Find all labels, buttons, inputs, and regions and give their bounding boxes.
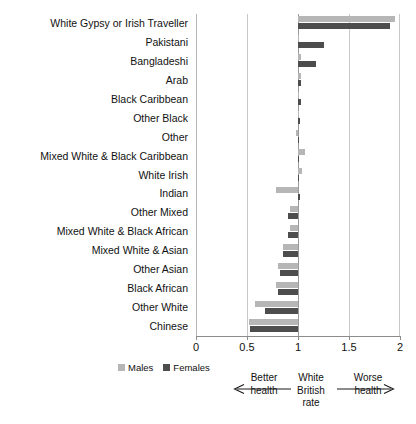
bar-males	[298, 111, 299, 117]
category-label: Black African	[0, 279, 188, 298]
bar-row	[196, 109, 400, 128]
category-label: Other Mixed	[0, 203, 188, 222]
legend-swatch-males-icon	[118, 364, 125, 371]
white-british-rate-label: White British rate	[287, 372, 335, 410]
bar-row	[196, 71, 400, 90]
bar-females	[298, 80, 301, 86]
bar-males	[298, 16, 395, 22]
bar-row	[196, 222, 400, 241]
category-label: Other	[0, 128, 188, 147]
category-label: Indian	[0, 184, 188, 203]
bar-row	[196, 279, 400, 298]
bar-females	[265, 308, 298, 314]
bar-row	[196, 52, 400, 71]
legend-item-males: Males	[118, 362, 153, 373]
bar-row	[196, 298, 400, 317]
legend-swatch-females-icon	[163, 364, 170, 371]
bar-males	[298, 92, 299, 98]
bar-row	[196, 241, 400, 260]
better-health-line1: Better	[237, 372, 291, 385]
bar-row	[196, 90, 400, 109]
x-tick-label: 2	[380, 341, 416, 353]
bar-males	[290, 206, 298, 212]
bar-males	[249, 319, 298, 325]
legend: Males Females	[118, 362, 210, 373]
bar-row	[196, 33, 400, 52]
category-label: Mixed White & Asian	[0, 241, 188, 260]
bar-females	[298, 61, 316, 67]
x-tick	[247, 336, 248, 340]
bar-row	[196, 184, 400, 203]
category-label: Pakistani	[0, 33, 188, 52]
category-label: Arab	[0, 71, 188, 90]
direction-annotation: Better health White British rate Worse h…	[225, 372, 415, 422]
worse-health-line1: Worse	[341, 372, 395, 385]
bar-females	[250, 326, 298, 332]
plot-area	[196, 14, 400, 336]
white-british-line1: White	[287, 372, 335, 385]
x-tick-label: 1	[278, 341, 318, 353]
x-tick	[400, 336, 401, 340]
category-label: Other Black	[0, 109, 188, 128]
x-tick	[349, 336, 350, 340]
ethnicity-health-rate-chart: White Gypsy or Irish TravellerPakistaniB…	[0, 0, 416, 424]
bar-females	[298, 23, 390, 29]
top-clip-mask	[0, 0, 416, 11]
bar-males	[255, 301, 298, 307]
bar-rows	[196, 14, 400, 336]
x-tick-label: 1.5	[329, 341, 369, 353]
bar-males	[290, 225, 298, 231]
category-label: Chinese	[0, 317, 188, 336]
bar-females	[298, 118, 300, 124]
bar-males	[298, 73, 301, 79]
x-tick	[196, 336, 197, 340]
bar-females	[278, 289, 298, 295]
bar-males	[298, 168, 302, 174]
category-label: Mixed White & Black African	[0, 222, 188, 241]
bar-row	[196, 260, 400, 279]
bar-males	[276, 282, 298, 288]
category-axis-labels: White Gypsy or Irish TravellerPakistaniB…	[0, 14, 190, 336]
white-british-line2: British	[287, 385, 335, 398]
x-tick-label: 0	[176, 341, 216, 353]
bar-males	[298, 35, 299, 41]
bar-males	[278, 263, 298, 269]
category-label: Black Caribbean	[0, 90, 188, 109]
bar-row	[196, 166, 400, 185]
bar-row	[196, 14, 400, 33]
bar-females	[298, 156, 299, 162]
bar-males	[298, 54, 301, 60]
legend-label-females: Females	[173, 362, 209, 373]
bar-males	[296, 130, 298, 136]
bar-females	[280, 270, 298, 276]
bar-females	[298, 137, 299, 143]
category-label: Other White	[0, 298, 188, 317]
bar-females	[288, 232, 298, 238]
bar-row	[196, 203, 400, 222]
x-tick	[298, 336, 299, 340]
category-label: White Irish	[0, 166, 188, 185]
bar-row	[196, 317, 400, 336]
bar-females	[298, 194, 300, 200]
legend-label-males: Males	[128, 362, 153, 373]
bar-males	[298, 149, 305, 155]
bar-females	[288, 213, 298, 219]
bar-females	[283, 251, 298, 257]
right-arrow-icon	[337, 384, 395, 394]
x-tick-label: 0.5	[227, 341, 267, 353]
category-label: Bangladeshi	[0, 52, 188, 71]
bar-females	[298, 42, 324, 48]
bar-females	[298, 99, 301, 105]
category-label: White Gypsy or Irish Traveller	[0, 14, 188, 33]
category-label: Mixed White & Black Caribbean	[0, 147, 188, 166]
bar-row	[196, 147, 400, 166]
left-arrow-icon	[233, 384, 291, 394]
bar-row	[196, 128, 400, 147]
legend-item-females: Females	[163, 362, 209, 373]
bar-males	[283, 244, 298, 250]
white-british-line3: rate	[287, 397, 335, 410]
bar-females	[298, 175, 299, 181]
bar-males	[276, 187, 298, 193]
category-label: Other Asian	[0, 260, 188, 279]
